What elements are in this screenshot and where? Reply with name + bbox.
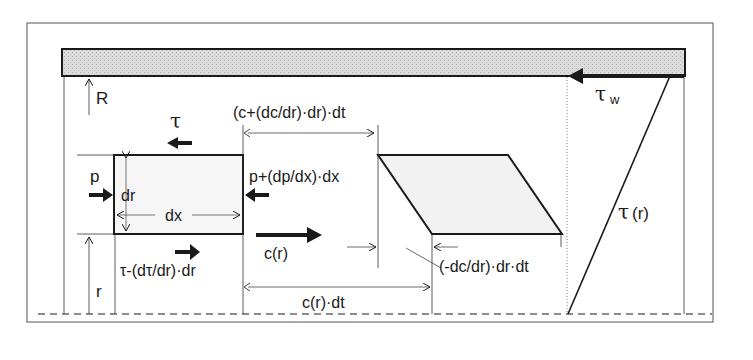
label-tau-minus: τ-(dτ/dr)·dr bbox=[120, 262, 196, 279]
p-plus-arrow bbox=[245, 188, 269, 202]
label-c-plus: (c+(dc/dr)·dr)·dt bbox=[233, 104, 346, 121]
label-tau-w-sub: w bbox=[609, 92, 620, 107]
deformed-element bbox=[378, 155, 562, 234]
pipe-flow-diagram: R r dr dx τ p p+(dp/dx)·dx τ-(dτ/dr)·dr … bbox=[0, 0, 753, 360]
tau-bottom-arrow bbox=[175, 244, 200, 260]
label-tau-r-arg: (r) bbox=[632, 204, 649, 223]
label-tau-w: τ bbox=[595, 82, 606, 106]
label-dr: dr bbox=[121, 187, 136, 204]
p-arrow bbox=[89, 188, 113, 202]
label-c-r: c(r) bbox=[264, 245, 288, 262]
label-dc-dr: (-dc/dr)·dr·dt bbox=[439, 258, 529, 275]
tau-top-arrow bbox=[167, 137, 192, 149]
label-r: r bbox=[96, 282, 102, 301]
shear-stress-profile bbox=[568, 76, 670, 314]
velocity-arrow bbox=[256, 227, 322, 243]
label-tau-r-symbol: τ bbox=[618, 200, 629, 224]
label-p-plus: p+(dp/dx)·dx bbox=[249, 168, 339, 185]
label-cr-dt: c(r)·dt bbox=[302, 294, 345, 311]
label-p: p bbox=[90, 167, 99, 186]
pipe-wall bbox=[62, 49, 685, 76]
dc-dr-leader bbox=[406, 248, 441, 268]
label-tau: τ bbox=[170, 109, 181, 133]
label-dx: dx bbox=[165, 207, 182, 224]
label-R: R bbox=[96, 89, 108, 108]
